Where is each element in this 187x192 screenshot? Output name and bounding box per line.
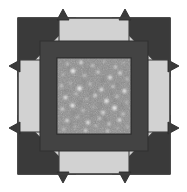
speckle-bright-spot	[61, 73, 65, 77]
top-edge-plate	[59, 18, 129, 42]
speckle-bright-spot	[83, 128, 88, 133]
speckle-bright-spot	[107, 75, 113, 81]
speckle-dim-spot	[91, 114, 94, 117]
speckle-dim-spot	[82, 80, 85, 83]
bottom-edge-plate	[59, 150, 129, 174]
speckle-dim-spot	[101, 78, 104, 81]
speckle-bright-spot	[125, 101, 129, 105]
speckle-bright-spot	[97, 116, 101, 120]
speckle-bright-spot	[64, 118, 69, 123]
speckle-bright-spot	[90, 63, 94, 67]
speckle-dim-spot	[65, 90, 68, 93]
speckle-bright-spot	[76, 115, 80, 119]
speckle-bright-spot	[69, 102, 75, 108]
speckle-bright-spot	[94, 124, 98, 128]
speckle-dim-spot	[73, 112, 76, 115]
speckle-bright-spot	[100, 110, 105, 115]
speckle-bright-spot	[63, 95, 69, 101]
speckle-dim-spot	[114, 100, 117, 103]
speckle-bright-spot	[62, 128, 66, 132]
speckle-dim-spot	[78, 101, 81, 104]
speckle-dim-spot	[99, 104, 102, 107]
speckle-bright-spot	[83, 74, 87, 78]
speckle-bright-spot	[74, 126, 77, 129]
speckle-bright-spot	[88, 82, 92, 86]
speckle-bright-spot	[70, 68, 77, 75]
speckle-bright-spot	[121, 112, 125, 116]
speckle-bright-spot	[121, 88, 127, 94]
speckle-bright-spot	[96, 70, 101, 75]
speckle-bright-spot	[60, 107, 65, 112]
speckle-bright-spot	[85, 120, 91, 126]
speckle-bright-spot	[81, 109, 85, 113]
speckle-bright-spot	[68, 81, 71, 84]
speckle-bright-spot	[125, 77, 129, 81]
speckle-bright-spot	[116, 127, 119, 130]
speckle-bright-spot	[115, 94, 119, 98]
speckle-bright-spot	[78, 60, 83, 65]
square-frame-speckle-figure: Square aperture with speckle field and c…	[0, 0, 187, 192]
speckle-bright-spot	[66, 62, 70, 66]
speckle-dim-spot	[68, 66, 71, 69]
speckle-dim-spot	[121, 105, 124, 108]
speckle-bright-spot	[117, 70, 122, 75]
speckle-bright-spot	[107, 122, 112, 127]
speckle-bright-spot	[113, 65, 118, 70]
speckle-bright-spot	[103, 98, 110, 105]
speckle-bright-spot	[92, 105, 95, 108]
figure-root: Square aperture with speckle field and c…	[0, 0, 187, 192]
speckle-bright-spot	[105, 129, 109, 133]
speckle-bright-spot	[74, 92, 78, 96]
speckle-bright-spot	[126, 125, 129, 128]
speckle-bright-spot	[122, 62, 125, 65]
speckle-dim-spot	[103, 118, 106, 121]
speckle-bright-spot	[59, 84, 63, 88]
speckle-bright-spot	[85, 97, 88, 100]
speckle-bright-spot	[111, 84, 115, 88]
speckle-bright-spot	[111, 105, 118, 112]
speckle-bright-spot	[93, 93, 98, 98]
speckle-bright-spot	[76, 85, 83, 92]
speckle-bright-spot	[99, 87, 105, 93]
speckle-dim-spot	[86, 69, 89, 72]
speckle-dim-spot	[110, 92, 113, 95]
left-edge-plate	[18, 60, 41, 132]
speckle-dim-spot	[117, 84, 120, 87]
speckle-dim-spot	[90, 91, 93, 94]
speckle-detector-window	[57, 58, 131, 134]
speckle-dim-spot	[70, 123, 73, 126]
right-edge-plate	[147, 60, 170, 132]
speckle-bright-spot	[102, 60, 105, 63]
speckle-bright-spot	[117, 117, 123, 123]
